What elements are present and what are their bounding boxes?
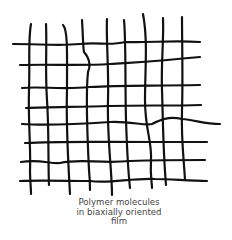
vertical-chain (63, 25, 70, 194)
horizontal-chain (22, 118, 220, 125)
vertical-chain (82, 20, 90, 190)
horizontal-molecule-chains (13, 41, 220, 182)
vertical-chain (29, 24, 31, 194)
vertical-chain (143, 14, 152, 188)
vertical-chain (46, 24, 49, 185)
horizontal-chain (25, 142, 207, 143)
caption-line: film (60, 217, 178, 227)
vertical-chain (124, 20, 130, 188)
figure-caption: Polymer molecules in biaxially oriented … (60, 198, 178, 227)
horizontal-chain (26, 105, 201, 108)
horizontal-chain (22, 85, 200, 88)
